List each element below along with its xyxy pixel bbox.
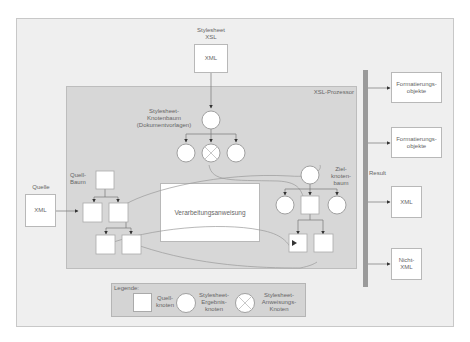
stylesheet-root-node bbox=[202, 111, 220, 129]
legend-label-instruction-node: Stylesheet- Anweisungs- Knoten bbox=[256, 292, 302, 313]
legend-label-result-node: Stylesheet- Ergebnis- knoten bbox=[196, 292, 232, 313]
target-source-node bbox=[314, 234, 333, 252]
source-node bbox=[96, 235, 115, 254]
target-source-node bbox=[289, 234, 307, 252]
result-output-arrows bbox=[368, 88, 390, 264]
legend-square-icon bbox=[133, 293, 152, 312]
target-source-node bbox=[301, 196, 319, 214]
legend-circle-icon bbox=[175, 292, 197, 314]
target-result-node bbox=[276, 196, 294, 214]
source-root-node bbox=[96, 171, 114, 189]
legend-title: Legende: bbox=[114, 285, 139, 292]
legend-crossed-circle-icon bbox=[234, 292, 256, 314]
stylesheet-result-node bbox=[177, 144, 195, 162]
stylesheet-tree-edges bbox=[186, 129, 236, 142]
stylesheet-result-node bbox=[227, 144, 245, 162]
stylesheet-instruction-node bbox=[202, 144, 220, 162]
source-node bbox=[109, 203, 128, 222]
target-root-node bbox=[301, 166, 319, 184]
target-result-node bbox=[328, 196, 346, 214]
source-node bbox=[83, 203, 102, 222]
source-node bbox=[122, 235, 141, 254]
